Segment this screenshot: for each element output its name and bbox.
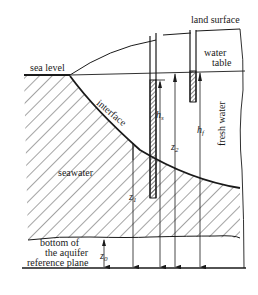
water-table-line — [70, 71, 245, 75]
z0-symbol: z0 — [99, 250, 108, 263]
hf-symbol: hf — [197, 124, 205, 137]
z2-arrowhead-up — [173, 73, 177, 82]
z2-symbol: z2 — [170, 141, 179, 154]
z0-arrowhead-up — [102, 239, 106, 246]
right-boundary-line — [240, 29, 244, 268]
shallow-well — [190, 30, 196, 102]
hs-arrowhead-up — [158, 80, 162, 88]
reference-plane-label: reference plane — [27, 257, 89, 268]
seawater-intrusion-diagram: land surface water table sea level inter… — [0, 0, 258, 295]
land-surface-label: land surface — [191, 14, 240, 25]
sea-level-label: sea level — [30, 62, 65, 73]
fresh-water-label: fresh water — [216, 101, 227, 146]
hf-arrowhead-up — [198, 72, 202, 81]
water-table-label-line2: table — [212, 57, 232, 68]
seawater-region — [24, 76, 240, 240]
seawater-label: seawater — [58, 167, 94, 178]
